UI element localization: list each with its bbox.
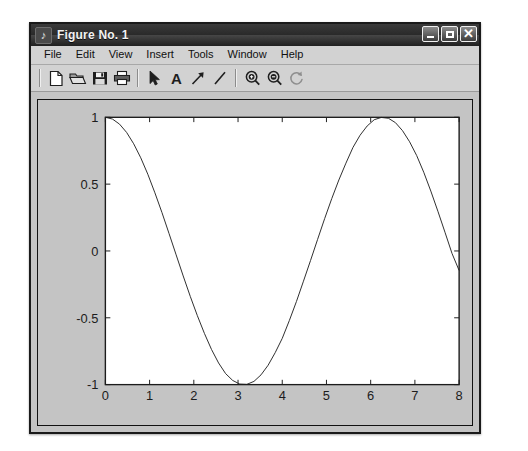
svg-text:A: A <box>171 70 182 86</box>
print-figure-button[interactable] <box>111 68 133 89</box>
x-tick-label: 1 <box>146 389 153 403</box>
edit-plot-button[interactable] <box>143 68 165 89</box>
x-tick-label: 6 <box>367 389 374 403</box>
x-tick-label: 5 <box>323 389 330 403</box>
x-tick-label: 3 <box>234 389 241 403</box>
y-tick-label: -1 <box>87 379 98 393</box>
menu-item-window[interactable]: Window <box>221 47 274 63</box>
new-figure-button[interactable] <box>45 68 67 89</box>
figure-area: 012345678-1-0.500.51 <box>31 93 479 432</box>
rotate-3d-button[interactable] <box>285 68 307 89</box>
new-document-icon <box>49 70 64 87</box>
open-file-button[interactable] <box>67 68 89 89</box>
pointer-arrow-icon <box>148 70 161 87</box>
menu-item-help[interactable]: Help <box>274 47 311 63</box>
y-tick-label: 1 <box>91 111 98 125</box>
insert-arrow-button[interactable] <box>187 68 209 89</box>
zoom-out-button[interactable] <box>263 68 285 89</box>
save-floppy-icon <box>92 70 108 86</box>
toolbar-separator <box>137 69 139 87</box>
axes-plot-area[interactable] <box>105 117 459 384</box>
menu-item-view[interactable]: View <box>102 47 140 63</box>
zoom-in-button[interactable] <box>241 68 263 89</box>
y-tick-label: 0 <box>91 245 98 259</box>
menu-item-file[interactable]: File <box>37 47 69 63</box>
menu-item-edit[interactable]: Edit <box>69 47 102 63</box>
line-annotation-icon <box>212 70 228 86</box>
figure-note-icon: ♪ <box>35 27 52 44</box>
printer-icon <box>113 70 131 86</box>
x-tick-label: 4 <box>279 389 286 403</box>
magnifier-plus-icon <box>244 70 261 87</box>
minimize-button[interactable] <box>422 26 439 42</box>
close-button[interactable]: ✕ <box>460 26 477 42</box>
arrow-annotation-icon <box>190 70 206 86</box>
rotate-arrow-icon <box>288 70 305 87</box>
x-tick-label: 0 <box>102 389 109 403</box>
menu-item-insert[interactable]: Insert <box>139 47 181 63</box>
figure-canvas[interactable]: 012345678-1-0.500.51 <box>37 99 473 426</box>
plot-axes[interactable]: 012345678-1-0.500.51 <box>38 100 472 425</box>
x-tick-label: 8 <box>456 389 463 403</box>
figure-window[interactable]: ♪ Figure No. 1 ✕ File Edit View Insert T… <box>29 22 481 434</box>
window-controls: ✕ <box>422 26 477 42</box>
insert-text-button[interactable]: A <box>165 68 187 89</box>
magnifier-minus-icon <box>266 70 283 87</box>
x-tick-label: 2 <box>190 389 197 403</box>
maximize-button[interactable] <box>441 26 458 42</box>
insert-line-button[interactable] <box>209 68 231 89</box>
y-tick-label: 0.5 <box>81 178 99 192</box>
toolbar-separator <box>39 69 41 87</box>
toolbar: A <box>31 65 479 92</box>
title-bar[interactable]: ♪ Figure No. 1 ✕ <box>31 24 479 46</box>
menu-item-tools[interactable]: Tools <box>181 47 221 63</box>
text-a-icon: A <box>169 70 184 86</box>
menu-bar: File Edit View Insert Tools Window Help <box>31 46 479 65</box>
x-tick-label: 7 <box>411 389 418 403</box>
toolbar-separator <box>235 69 237 87</box>
y-tick-label: -0.5 <box>76 312 98 326</box>
window-title: Figure No. 1 <box>57 28 129 42</box>
open-folder-icon <box>69 70 87 86</box>
save-figure-button[interactable] <box>89 68 111 89</box>
